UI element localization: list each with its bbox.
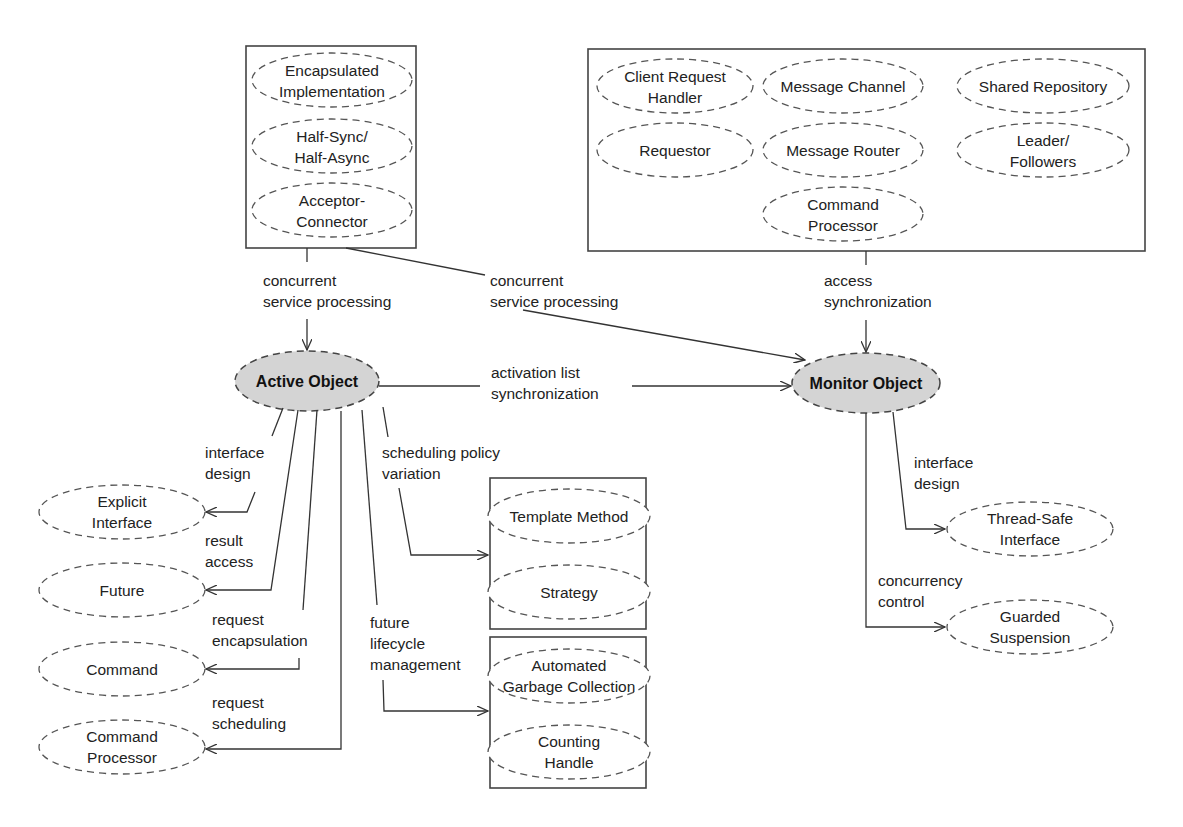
svg-text:Encapsulated: Encapsulated <box>285 62 379 79</box>
svg-text:Implementation: Implementation <box>279 83 385 100</box>
svg-text:Future: Future <box>100 582 145 599</box>
svg-text:Handler: Handler <box>648 89 702 106</box>
edge-scheduling-policy: scheduling policy variation <box>382 407 500 555</box>
node-acceptor-connector[interactable]: Acceptor- Connector <box>252 183 412 237</box>
svg-text:Message Channel: Message Channel <box>781 78 906 95</box>
svg-text:Active Object: Active Object <box>256 373 359 390</box>
svg-text:Counting: Counting <box>538 733 600 750</box>
group-top-right: Client Request Handler Message Channel S… <box>588 49 1145 251</box>
node-command[interactable]: Command <box>39 642 205 696</box>
svg-text:Command: Command <box>807 196 879 213</box>
node-message-channel[interactable]: Message Channel <box>763 59 923 113</box>
node-command-processor-top[interactable]: Command Processor <box>763 187 923 241</box>
svg-text:access: access <box>824 272 872 289</box>
svg-text:Client Request: Client Request <box>624 68 726 85</box>
node-explicit-interface[interactable]: Explicit Interface <box>39 485 205 539</box>
node-automated-garbage-collection[interactable]: Automated Garbage Collection <box>488 649 650 703</box>
svg-text:Processor: Processor <box>87 749 157 766</box>
svg-text:Command: Command <box>86 661 158 678</box>
svg-text:synchronization: synchronization <box>491 385 599 402</box>
svg-text:Half-Async: Half-Async <box>295 149 370 166</box>
svg-text:Message Router: Message Router <box>786 142 900 159</box>
svg-text:Shared Repository: Shared Repository <box>979 78 1108 95</box>
node-guarded-suspension[interactable]: Guarded Suspension <box>947 600 1113 654</box>
node-requestor[interactable]: Requestor <box>597 123 753 177</box>
svg-text:control: control <box>878 593 925 610</box>
svg-text:Interface: Interface <box>1000 531 1060 548</box>
svg-text:Monitor Object: Monitor Object <box>810 375 924 392</box>
svg-text:Suspension: Suspension <box>989 629 1070 646</box>
svg-text:Connector: Connector <box>296 213 368 230</box>
svg-text:access: access <box>205 553 253 570</box>
svg-text:interface: interface <box>914 454 973 471</box>
svg-text:concurrency: concurrency <box>878 572 963 589</box>
svg-text:interface: interface <box>205 444 264 461</box>
svg-text:Template Method: Template Method <box>510 508 629 525</box>
svg-text:service processing: service processing <box>263 293 391 310</box>
node-thread-safe-interface[interactable]: Thread-Safe Interface <box>947 502 1113 556</box>
svg-text:Half-Sync/: Half-Sync/ <box>296 128 368 145</box>
svg-text:future: future <box>370 614 410 631</box>
svg-text:Acceptor-: Acceptor- <box>299 192 365 209</box>
edge-concurrency-control: concurrency control <box>866 413 963 627</box>
group-scheduling: Template Method Strategy <box>488 478 650 629</box>
svg-text:encapsulation: encapsulation <box>212 632 308 649</box>
edge-tl-to-active: concurrent service processing <box>263 248 391 350</box>
node-monitor-object[interactable]: Monitor Object <box>792 353 940 413</box>
node-client-request-handler[interactable]: Client Request Handler <box>597 59 753 113</box>
svg-text:Command: Command <box>86 728 158 745</box>
svg-text:design: design <box>205 465 251 482</box>
node-message-router[interactable]: Message Router <box>763 123 923 177</box>
svg-text:Strategy: Strategy <box>540 584 598 601</box>
edge-tl-to-monitor: concurrent service processing <box>346 248 805 360</box>
svg-text:lifecycle: lifecycle <box>370 635 425 652</box>
svg-text:scheduling: scheduling <box>212 715 286 732</box>
node-encapsulated-implementation[interactable]: Encapsulated Implementation <box>252 53 412 107</box>
edge-interface-design-left: interface design <box>205 408 283 512</box>
node-counting-handle[interactable]: Counting Handle <box>488 725 650 779</box>
svg-text:Requestor: Requestor <box>639 142 711 159</box>
edge-active-to-monitor: activation list synchronization <box>379 364 791 402</box>
node-half-sync-half-async[interactable]: Half-Sync/ Half-Async <box>252 119 412 173</box>
svg-text:Thread-Safe: Thread-Safe <box>987 510 1073 527</box>
svg-text:Processor: Processor <box>808 217 878 234</box>
svg-text:Interface: Interface <box>92 514 152 531</box>
node-command-processor-left[interactable]: Command Processor <box>39 720 205 774</box>
node-strategy[interactable]: Strategy <box>488 565 650 619</box>
svg-text:request: request <box>212 694 264 711</box>
svg-text:concurrent: concurrent <box>490 272 564 289</box>
group-lifecycle: Automated Garbage Collection Counting Ha… <box>488 637 650 788</box>
node-shared-repository[interactable]: Shared Repository <box>957 59 1129 113</box>
svg-text:result: result <box>205 532 244 549</box>
node-template-method[interactable]: Template Method <box>488 489 650 543</box>
svg-text:design: design <box>914 475 960 492</box>
svg-text:Automated: Automated <box>532 657 607 674</box>
svg-text:Garbage Collection: Garbage Collection <box>503 678 636 695</box>
svg-text:Followers: Followers <box>1010 153 1077 170</box>
svg-text:Leader/: Leader/ <box>1017 132 1070 149</box>
svg-text:scheduling policy: scheduling policy <box>382 444 500 461</box>
edge-request-scheduling: request scheduling <box>206 411 341 749</box>
node-active-object[interactable]: Active Object <box>235 351 379 411</box>
edge-interface-design-right: interface design <box>893 412 973 529</box>
pattern-relationship-diagram: Encapsulated Implementation Half-Sync/ H… <box>0 0 1183 827</box>
svg-text:Handle: Handle <box>544 754 593 771</box>
svg-text:request: request <box>212 611 264 628</box>
svg-text:Explicit: Explicit <box>97 493 147 510</box>
svg-text:service processing: service processing <box>490 293 618 310</box>
node-future[interactable]: Future <box>39 563 205 617</box>
svg-text:activation list: activation list <box>491 364 580 381</box>
node-leader-followers[interactable]: Leader/ Followers <box>957 123 1129 177</box>
svg-text:variation: variation <box>382 465 441 482</box>
svg-text:concurrent: concurrent <box>263 272 337 289</box>
edge-tr-to-monitor: access synchronization <box>824 251 932 352</box>
svg-text:Guarded: Guarded <box>1000 608 1060 625</box>
svg-text:synchronization: synchronization <box>824 293 932 310</box>
svg-text:management: management <box>370 656 461 673</box>
group-top-left: Encapsulated Implementation Half-Sync/ H… <box>246 46 416 248</box>
